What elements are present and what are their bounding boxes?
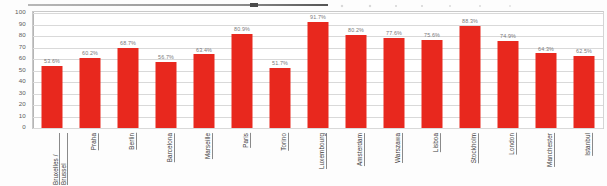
bar-slot: 63.4% xyxy=(185,12,223,128)
x-axis-label-slot: Torino xyxy=(261,132,299,186)
x-axis-label-slot: Amsterdam xyxy=(337,132,375,186)
bar-value-label: 51.7% xyxy=(272,61,288,66)
x-axis-label: Amsterdam xyxy=(356,133,365,166)
x-axis-label: Berlin xyxy=(128,133,137,150)
bar-slot: 68.7% xyxy=(109,12,147,128)
bar-slot: 77.6% xyxy=(375,12,413,128)
bar-slot: 51.7% xyxy=(261,12,299,128)
x-axis-label: Luxembourg xyxy=(318,133,327,169)
x-axis-label-slot: Warszawa xyxy=(375,132,413,186)
y-axis-tick-label: 100 xyxy=(0,9,26,15)
bar[interactable] xyxy=(346,35,367,128)
bar-slot: 60.2% xyxy=(71,12,109,128)
x-axis-label-slot: Paris xyxy=(223,132,261,186)
bar-value-label: 68.7% xyxy=(120,41,136,46)
bar[interactable] xyxy=(42,66,63,128)
x-axis-label: Lisboa xyxy=(432,133,441,152)
x-axis-label: Praha xyxy=(90,133,99,150)
bar-slot: 53.6% xyxy=(33,12,71,128)
bar-value-label: 53.6% xyxy=(44,59,60,64)
x-axis-label: Marseille xyxy=(204,133,213,159)
bar-value-label: 80.2% xyxy=(348,28,364,33)
bar-slot: 80.2% xyxy=(337,12,375,128)
x-axis-labels: Bruxelles /BrusselPrahaBerlinBarcelonaMa… xyxy=(33,132,603,186)
bar[interactable] xyxy=(194,54,215,128)
bar-value-label: 91.7% xyxy=(310,15,326,20)
y-axis-tick-label: 0 xyxy=(0,124,26,130)
x-axis-label-slot: Bruxelles /Brussel xyxy=(33,132,71,186)
y-axis-tick-label: 20 xyxy=(0,101,26,107)
bar[interactable] xyxy=(118,48,139,128)
scanned-page-background: 1009080706050403020100 53.6%60.2%68.7%56… xyxy=(0,0,607,186)
y-axis-tick-label: 60 xyxy=(0,55,26,61)
x-axis-label-slot: Marseille xyxy=(185,132,223,186)
bar-value-label: 60.2% xyxy=(82,51,98,56)
bars-container: 53.6%60.2%68.7%56.7%63.4%80.9%51.7%91.7%… xyxy=(33,12,603,128)
x-axis-label: Paris xyxy=(242,133,251,148)
x-axis-label: Torino xyxy=(280,133,289,151)
header-rule-marker xyxy=(250,3,258,7)
bar-value-label: 64.3% xyxy=(538,47,554,52)
x-axis-label: Warszawa xyxy=(394,133,403,163)
cropped-page-header xyxy=(0,0,607,9)
bar-slot: 88.3% xyxy=(451,12,489,128)
bar-slot: 80.9% xyxy=(223,12,261,128)
header-rule-line xyxy=(28,4,328,6)
bar[interactable] xyxy=(422,40,443,128)
bar-slot: 74.9% xyxy=(489,12,527,128)
x-axis-label: Bruxelles /Brussel xyxy=(52,133,69,185)
x-axis-label-slot: Stockholm xyxy=(451,132,489,186)
bar[interactable] xyxy=(270,68,291,128)
bar[interactable] xyxy=(574,56,595,129)
bar-value-label: 56.7% xyxy=(158,55,174,60)
bar-value-label: 74.9% xyxy=(500,34,516,39)
bar[interactable] xyxy=(536,53,557,128)
bar[interactable] xyxy=(498,41,519,128)
x-axis-label: Istanbul xyxy=(584,133,593,156)
y-axis-tick-label: 40 xyxy=(0,78,26,84)
bar-slot: 56.7% xyxy=(147,12,185,128)
bar-value-label: 88.3% xyxy=(462,19,478,24)
bar-slot: 75.6% xyxy=(413,12,451,128)
bar[interactable] xyxy=(156,62,177,128)
bar-chart: 1009080706050403020100 53.6%60.2%68.7%56… xyxy=(0,9,607,186)
bar-slot: 62.5% xyxy=(565,12,603,128)
x-axis-label-slot: Istanbul xyxy=(565,132,603,186)
x-axis-label-slot: Barcelona xyxy=(147,132,185,186)
bar-value-label: 75.6% xyxy=(424,33,440,38)
bar-value-label: 62.5% xyxy=(576,49,592,54)
y-axis-tick-label: 10 xyxy=(0,113,26,119)
x-axis-label-slot: Praha xyxy=(71,132,109,186)
x-axis-label: London xyxy=(508,133,517,155)
x-axis-label-slot: Berlin xyxy=(109,132,147,186)
bar[interactable] xyxy=(80,58,101,128)
x-axis-label: Stockholm xyxy=(470,133,479,163)
y-axis-tick-label: 30 xyxy=(0,90,26,96)
y-axis-tick-label: 50 xyxy=(0,67,26,73)
bar-value-label: 80.9% xyxy=(234,27,250,32)
bar[interactable] xyxy=(232,34,253,128)
bar-slot: 91.7% xyxy=(299,12,337,128)
bar[interactable] xyxy=(460,26,481,128)
bar-value-label: 77.6% xyxy=(386,31,402,36)
bar-slot: 64.3% xyxy=(527,12,565,128)
y-axis-tick-label: 70 xyxy=(0,44,26,50)
bar-value-label: 63.4% xyxy=(196,48,212,53)
x-axis-label-slot: Manchester xyxy=(527,132,565,186)
header-faded-text xyxy=(330,0,540,8)
x-axis-label: Barcelona xyxy=(166,133,175,162)
bar[interactable] xyxy=(308,22,329,128)
x-axis-label-slot: Luxembourg xyxy=(299,132,337,186)
x-axis-label: Manchester xyxy=(546,133,555,167)
x-axis-label-slot: Lisboa xyxy=(413,132,451,186)
y-axis-tick-label: 90 xyxy=(0,21,26,27)
bar[interactable] xyxy=(384,38,405,128)
y-axis-tick-label: 80 xyxy=(0,32,26,38)
x-axis-label-slot: London xyxy=(489,132,527,186)
